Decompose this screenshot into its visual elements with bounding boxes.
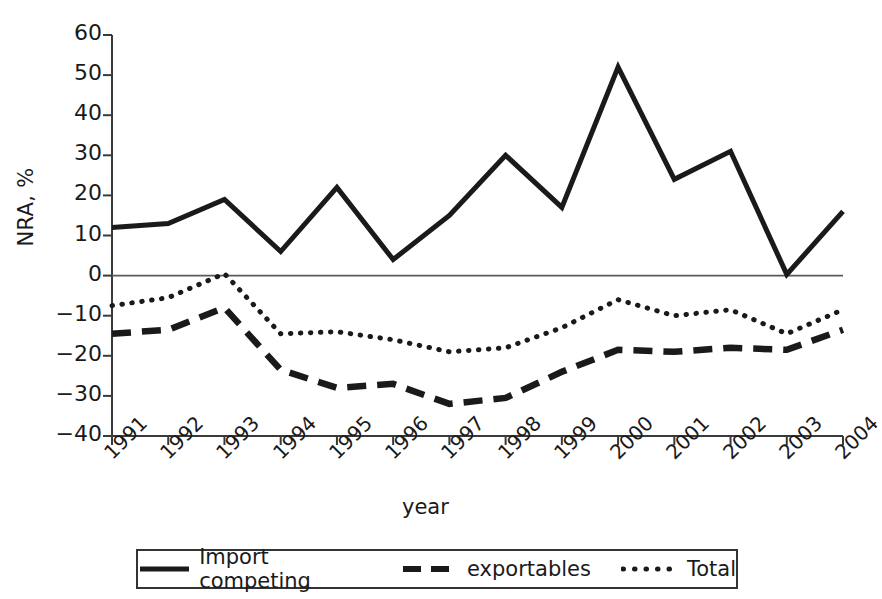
y-tick-label: −20 <box>36 341 102 366</box>
legend-swatch-dashed <box>401 562 457 576</box>
legend-swatch-dotted <box>621 562 677 576</box>
legend-swatch-solid <box>138 562 189 576</box>
y-tick-label: 60 <box>36 20 102 45</box>
x-axis-label: year <box>402 495 449 519</box>
legend-item-exportables[interactable]: exportables <box>401 557 591 581</box>
y-tick-label: 10 <box>36 221 102 246</box>
chart-legend: Import competing exportables Total <box>136 549 738 589</box>
y-axis-label: NRA, % <box>14 147 38 267</box>
y-tick-label: 50 <box>36 60 102 85</box>
y-tick-label: −10 <box>36 301 102 326</box>
series-lines <box>112 67 843 404</box>
legend-label-exportables: exportables <box>467 557 591 581</box>
series-line-dotted <box>112 274 843 352</box>
series-line-dashed <box>112 308 843 404</box>
axis-lines <box>112 35 843 436</box>
legend-item-total[interactable]: Total <box>621 557 736 581</box>
y-tick-label: −30 <box>36 381 102 406</box>
legend-item-import-competing[interactable]: Import competing <box>138 545 371 593</box>
legend-label-import-competing: Import competing <box>199 545 371 593</box>
series-line-solid <box>112 67 843 274</box>
y-tick-label: 0 <box>36 261 102 286</box>
axis-tick-marks <box>103 35 843 445</box>
legend-label-total: Total <box>687 557 736 581</box>
y-tick-label: 20 <box>36 180 102 205</box>
y-tick-label: −40 <box>36 421 102 446</box>
y-tick-label: 30 <box>36 140 102 165</box>
y-tick-label: 40 <box>36 100 102 125</box>
